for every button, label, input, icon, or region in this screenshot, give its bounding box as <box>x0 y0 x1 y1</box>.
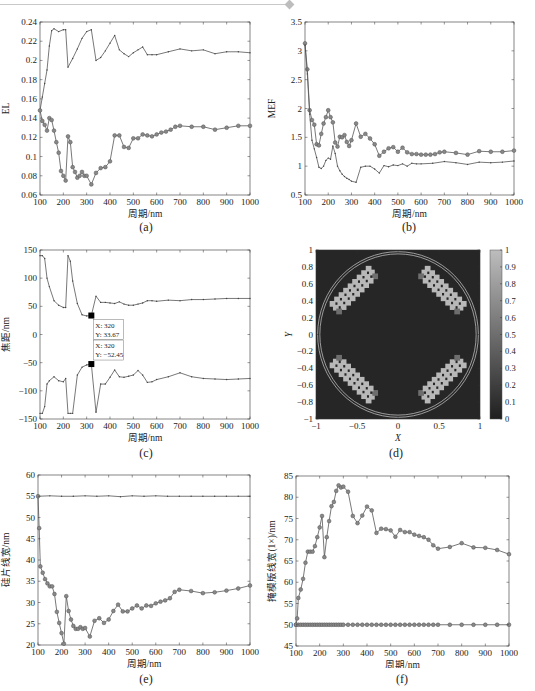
svg-text:700: 700 <box>438 197 452 207</box>
svg-text:Y: 33.67: Y: 33.67 <box>95 331 119 339</box>
svg-text:200: 200 <box>55 647 69 657</box>
svg-text:周期/nm: 周期/nm <box>392 209 427 219</box>
svg-text:1000: 1000 <box>505 197 524 207</box>
svg-text:300: 300 <box>80 197 94 207</box>
svg-text:900: 900 <box>220 421 234 431</box>
svg-text:1: 1 <box>309 245 314 255</box>
svg-text:500: 500 <box>384 648 398 658</box>
caption-f: (f) <box>382 672 422 687</box>
svg-text:0.08: 0.08 <box>21 171 37 181</box>
svg-text:70: 70 <box>284 535 294 545</box>
svg-text:−100: −100 <box>18 386 37 396</box>
svg-text:0: 0 <box>309 330 314 340</box>
chart-f-mask-cd: 1002003004005006007008009001000455055606… <box>266 468 535 668</box>
header-rule <box>0 4 290 5</box>
svg-text:800: 800 <box>197 421 211 431</box>
svg-text:−50: −50 <box>23 358 38 368</box>
svg-text:0.5: 0.5 <box>291 190 303 200</box>
caption-b: (b) <box>389 220 429 235</box>
svg-text:600: 600 <box>150 421 164 431</box>
svg-text:0.14: 0.14 <box>21 113 37 123</box>
svg-text:30: 30 <box>26 598 36 608</box>
svg-text:700: 700 <box>173 197 187 207</box>
svg-text:300: 300 <box>345 197 359 207</box>
svg-text:Y: Y <box>284 330 294 337</box>
caption-a: (a) <box>126 220 166 235</box>
svg-text:0.16: 0.16 <box>21 94 37 104</box>
svg-text:0.1: 0.1 <box>505 397 516 407</box>
svg-text:0.22: 0.22 <box>21 36 37 46</box>
svg-text:Y: −52.45: Y: −52.45 <box>95 351 123 359</box>
svg-text:周期/nm: 周期/nm <box>127 659 162 668</box>
svg-text:X: 320: X: 320 <box>95 322 115 330</box>
svg-text:500: 500 <box>127 197 141 207</box>
svg-text:0.24: 0.24 <box>21 17 37 27</box>
svg-text:500: 500 <box>125 647 139 657</box>
svg-text:700: 700 <box>173 647 187 657</box>
svg-text:900: 900 <box>484 197 498 207</box>
svg-text:硅片线宽/nm: 硅片线宽/nm <box>0 532 11 587</box>
svg-text:300: 300 <box>78 647 92 657</box>
chart-d-heatmap: 00.10.20.30.40.50.60.70.80.91−1−0.500.51… <box>266 243 535 443</box>
svg-text:3.5: 3.5 <box>291 17 303 27</box>
svg-text:85: 85 <box>284 471 294 481</box>
svg-text:55: 55 <box>26 491 36 501</box>
svg-text:周期/nm: 周期/nm <box>128 209 163 219</box>
svg-text:75: 75 <box>284 514 294 524</box>
svg-text:0.12: 0.12 <box>21 132 37 142</box>
chart-f-svg: 1002003004005006007008009001000455055606… <box>266 468 535 668</box>
svg-text:X: X <box>394 433 402 443</box>
svg-text:400: 400 <box>103 197 117 207</box>
caption-e: (e) <box>126 672 166 687</box>
svg-text:500: 500 <box>391 197 405 207</box>
svg-text:0.6: 0.6 <box>302 279 314 289</box>
svg-text:−0.4: −0.4 <box>297 363 314 373</box>
svg-text:600: 600 <box>150 197 164 207</box>
caption-c: (c) <box>126 446 166 461</box>
chart-a-svg: 10020030040050060070080090010000.060.080… <box>0 14 265 219</box>
svg-text:600: 600 <box>414 197 428 207</box>
svg-text:周期/nm: 周期/nm <box>128 433 163 443</box>
chart-d-svg: 00.10.20.30.40.50.60.70.80.91−1−0.500.51… <box>266 243 535 443</box>
svg-text:65: 65 <box>284 556 294 566</box>
svg-text:3: 3 <box>298 46 303 56</box>
svg-text:50: 50 <box>28 301 38 311</box>
svg-text:600: 600 <box>408 648 422 658</box>
svg-text:0.9: 0.9 <box>505 262 516 272</box>
svg-text:1000: 1000 <box>241 197 260 207</box>
svg-text:1: 1 <box>478 421 483 431</box>
svg-text:80: 80 <box>284 492 294 502</box>
svg-text:−0.8: −0.8 <box>297 397 314 407</box>
svg-text:300: 300 <box>80 421 94 431</box>
svg-text:1000: 1000 <box>241 421 260 431</box>
svg-text:20: 20 <box>26 640 36 650</box>
chart-c-focus: X: 320Y: 33.67X: 320Y: −52.4510020030040… <box>0 243 265 443</box>
svg-text:焦距/nm: 焦距/nm <box>0 317 11 352</box>
svg-text:45: 45 <box>26 534 36 544</box>
svg-text:0.5: 0.5 <box>433 421 445 431</box>
svg-text:0.3: 0.3 <box>505 363 516 373</box>
caption-d: (d) <box>376 446 416 461</box>
svg-text:0.06: 0.06 <box>21 190 37 200</box>
chart-e-svg: 1002003004005006007008009001000202530354… <box>0 468 265 668</box>
svg-text:25: 25 <box>26 619 36 629</box>
svg-text:0.5: 0.5 <box>505 330 516 340</box>
svg-text:0.6: 0.6 <box>505 313 516 323</box>
svg-text:300: 300 <box>337 648 351 658</box>
svg-text:900: 900 <box>220 197 234 207</box>
svg-text:200: 200 <box>57 421 71 431</box>
chart-a-el: 10020030040050060070080090010000.060.080… <box>0 14 265 219</box>
svg-text:−1: −1 <box>303 414 313 424</box>
svg-text:MEF: MEF <box>267 99 277 119</box>
svg-text:800: 800 <box>196 647 210 657</box>
svg-text:−0.6: −0.6 <box>297 380 314 390</box>
svg-text:0.2: 0.2 <box>302 313 313 323</box>
svg-text:400: 400 <box>368 197 382 207</box>
svg-text:X: 320: X: 320 <box>95 342 115 350</box>
svg-text:400: 400 <box>103 421 117 431</box>
svg-text:1.5: 1.5 <box>291 132 303 142</box>
svg-text:900: 900 <box>220 647 234 657</box>
chart-c-svg: X: 320Y: 33.67X: 320Y: −52.4510020030040… <box>0 243 265 443</box>
svg-text:0: 0 <box>505 414 509 424</box>
svg-text:500: 500 <box>127 421 141 431</box>
